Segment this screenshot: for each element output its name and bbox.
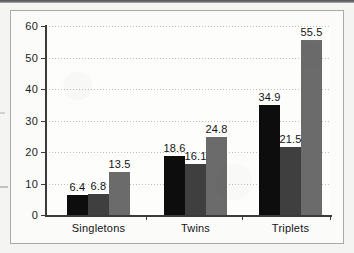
scan-artifact-top-band <box>0 0 354 3</box>
bar-value-label: 18.6 <box>163 142 185 154</box>
y-axis-tick-label: 10 <box>25 178 38 190</box>
scan-artifact-left-speck <box>0 186 8 188</box>
x-axis-tick <box>330 215 331 220</box>
gridline <box>46 121 331 122</box>
bar-value-label: 34.9 <box>258 91 280 103</box>
x-axis-line <box>45 215 332 217</box>
y-axis-line <box>45 25 47 216</box>
bar-value-label: 21.5 <box>279 133 301 145</box>
y-axis-tick-label: 50 <box>25 52 38 64</box>
x-axis-tick <box>242 215 243 220</box>
plot-area: 0102030405060 6.46.813.518.616.124.834.9… <box>46 26 331 215</box>
bar <box>109 172 130 215</box>
y-axis-tick-label: 60 <box>25 20 38 32</box>
bar <box>88 194 109 215</box>
bar <box>259 105 280 215</box>
bar-value-label: 13.5 <box>108 158 130 170</box>
y-axis-tick-label: 20 <box>25 146 38 158</box>
y-axis-tick-label: 30 <box>25 115 38 127</box>
bar <box>206 137 227 215</box>
bar-value-label: 6.8 <box>91 180 107 192</box>
bar <box>301 40 322 215</box>
bar-value-label: 16.1 <box>184 150 206 162</box>
bar <box>185 164 206 215</box>
gridline <box>46 26 331 27</box>
chart-frame: 0102030405060 6.46.813.518.616.124.834.9… <box>10 10 344 244</box>
x-axis-tick <box>146 215 147 220</box>
y-axis-tick-label: 0 <box>32 209 38 221</box>
category-label: Twins <box>181 222 210 234</box>
scan-artifact-left-speck-upper <box>0 112 5 114</box>
bar <box>280 147 301 215</box>
bar <box>67 195 88 215</box>
bar-value-label: 6.4 <box>70 181 86 193</box>
y-axis-tick-label: 40 <box>25 83 38 95</box>
gridline <box>46 58 331 59</box>
category-label: Singletons <box>72 222 125 234</box>
bar <box>164 156 185 215</box>
gridline <box>46 89 331 90</box>
category-label: Triplets <box>272 222 309 234</box>
bar-value-label: 55.5 <box>300 26 322 38</box>
bar-value-label: 24.8 <box>205 123 227 135</box>
